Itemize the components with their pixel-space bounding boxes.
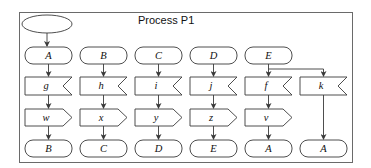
receive-label: g [43, 80, 48, 91]
state-label: B [45, 143, 52, 154]
send-signal [245, 109, 292, 126]
state-label: D [154, 143, 163, 154]
send-label: z [208, 112, 213, 123]
state-label: A [319, 143, 327, 154]
send-label: y [153, 112, 159, 123]
state-label: D [209, 50, 218, 61]
receive-label: k [319, 80, 324, 91]
send-signal [80, 109, 127, 126]
state-label: C [155, 50, 163, 61]
state-label: C [100, 143, 108, 154]
state-label: A [44, 50, 52, 61]
send-label: v [264, 112, 269, 123]
process-title: Process P1 [138, 14, 194, 26]
process-diagram: Process P1 A g w B B h x C C i [0, 0, 371, 168]
state-label: E [264, 50, 272, 61]
send-signal [135, 109, 182, 126]
send-signal [190, 109, 237, 126]
state-label: E [209, 143, 217, 154]
send-label: x [98, 112, 104, 123]
receive-label: i [155, 80, 158, 91]
state-label: A [264, 143, 272, 154]
start-ellipse [22, 15, 72, 33]
state-label: B [100, 50, 107, 61]
send-label: w [42, 112, 49, 123]
receive-label: h [98, 80, 103, 91]
